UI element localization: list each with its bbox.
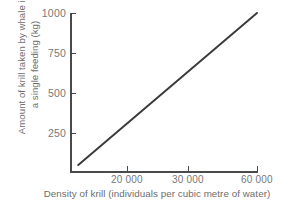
x-axis-ticklabel-20000: 20 000 — [100, 174, 154, 185]
x-axis-ticklabel-30000: 30 000 — [161, 174, 215, 185]
y-axis-ticklabel-750-wrap: 750 — [24, 47, 66, 59]
x-axis-ticklabel-60000-wrap: 60 000 — [230, 174, 284, 186]
x-axis-tick-20000 — [127, 166, 128, 172]
x-axis-ticklabel-20000-wrap: 20 000 — [100, 174, 154, 186]
y-axis-tick-750 — [70, 53, 76, 54]
y-axis-ticklabel-1000-wrap: 1000 — [24, 7, 66, 19]
y-axis-tick-500 — [70, 93, 76, 94]
x-axis-tick-60000 — [257, 166, 258, 172]
y-axis-ticklabel-250-wrap: 250 — [24, 127, 66, 139]
y-axis-ticklabel-500-wrap: 500 — [24, 87, 66, 99]
x-axis-ticklabel-30000-wrap: 30 000 — [161, 174, 215, 186]
y-axis-ticklabel-500: 500 — [24, 87, 66, 99]
y-axis-ticklabel-750: 750 — [24, 47, 66, 59]
chart-figure: Amount of krill taken by whale in a sing… — [0, 0, 291, 207]
y-axis-tick-1000 — [70, 13, 76, 14]
y-axis-ticklabel-250: 250 — [24, 127, 66, 139]
y-axis-ticklabel-1000: 1000 — [24, 7, 66, 19]
x-axis-spine — [70, 171, 258, 173]
y-axis-tick-250 — [70, 133, 76, 134]
x-axis-tick-30000 — [188, 166, 189, 172]
x-axis-title: Density of krill (individuals per cubic … — [28, 188, 286, 199]
data-series-line — [78, 13, 257, 165]
x-axis-ticklabel-60000: 60 000 — [230, 174, 284, 185]
